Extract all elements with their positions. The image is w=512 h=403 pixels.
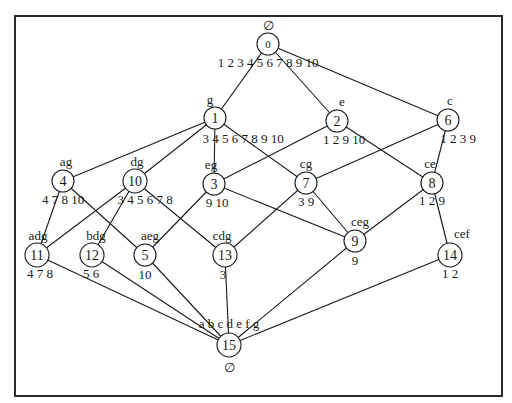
node-0: 0∅1 2 3 4 5 6 7 8 9 10 [218, 18, 319, 70]
edges-layer [37, 44, 450, 345]
node-extent-label: 3 4 5 6 7 8 9 10 [202, 131, 283, 146]
node-intent-label: e [339, 94, 345, 109]
node-8: 8ce1 2 9 [419, 156, 445, 208]
node-id-label: 0 [265, 38, 271, 50]
node-id-label: 3 [211, 177, 218, 192]
node-id-label: 9 [352, 234, 359, 249]
node-id-label: 6 [445, 113, 452, 128]
node-1: 1g3 4 5 6 7 8 9 10 [202, 92, 283, 146]
node-intent-label: a b c d e f g [199, 316, 260, 331]
node-intent-label: cef [454, 226, 471, 241]
node-id-label: 4 [60, 174, 67, 189]
node-7: 7cg3 9 [295, 156, 317, 209]
edge-14-15 [229, 255, 450, 345]
concept-lattice-diagram: 0∅1 2 3 4 5 6 7 8 9 101g3 4 5 6 7 8 9 10… [0, 0, 512, 403]
node-extent-label: 1 2 3 4 5 6 7 8 9 10 [218, 55, 319, 70]
node-extent-label: 3 4 5 6 7 8 [117, 192, 172, 207]
node-extent-label: 4 7 8 [27, 266, 53, 281]
node-12: 12bdg5 6 [80, 228, 106, 281]
node-intent-label: ∅ [263, 18, 274, 33]
node-extent-label: 4 7 8 10 [42, 192, 84, 207]
edge-12-15 [92, 255, 229, 345]
node-intent-label: g [207, 92, 214, 107]
node-intent-label: cdg [213, 228, 232, 243]
nodes-layer: 0∅1 2 3 4 5 6 7 8 9 101g3 4 5 6 7 8 9 10… [25, 18, 476, 375]
node-id-label: 13 [218, 248, 232, 263]
node-9: 9ceg9 [344, 214, 370, 268]
node-extent-label: 1 2 [442, 266, 458, 281]
node-intent-label: ag [60, 154, 73, 169]
node-4: 4ag4 7 8 10 [42, 154, 84, 207]
edge-8-9 [355, 183, 432, 241]
node-extent-label: 5 6 [83, 266, 100, 281]
node-id-label: 1 [212, 111, 219, 126]
node-2: 2e1 2 9 10 [323, 94, 365, 147]
node-extent-label: 9 10 [206, 195, 229, 210]
node-11: 11adg4 7 8 [25, 228, 53, 281]
node-extent-label: 10 [139, 267, 152, 282]
node-extent-label: 1 2 3 9 [440, 131, 476, 146]
node-id-label: 11 [30, 248, 43, 263]
node-5: 5aeg10 [134, 228, 160, 282]
node-intent-label: aeg [141, 228, 160, 243]
node-intent-label: cg [300, 156, 313, 171]
node-extent-label: 9 [352, 253, 359, 268]
node-intent-label: ce [424, 156, 436, 171]
node-intent-label: eg [205, 157, 218, 172]
node-id-label: 14 [443, 248, 457, 263]
edge-1-10 [135, 118, 215, 181]
edge-2-8 [337, 121, 432, 183]
edge-1-7 [215, 118, 306, 183]
node-extent-label: 1 2 9 [419, 193, 445, 208]
node-intent-label: bdg [86, 228, 106, 243]
node-extent-label: 1 2 9 10 [323, 132, 365, 147]
node-13: 13cdg3 [213, 228, 237, 282]
node-id-label: 15 [222, 338, 236, 353]
node-14: 14cef1 2 [438, 226, 471, 281]
node-intent-label: ceg [351, 214, 370, 229]
node-id-label: 12 [85, 248, 99, 263]
node-extent-label: ∅ [224, 360, 235, 375]
edge-3-9 [214, 184, 355, 241]
node-6: 6c1 2 3 9 [437, 93, 476, 146]
node-id-label: 2 [334, 114, 341, 129]
node-id-label: 10 [128, 174, 142, 189]
edge-11-15 [37, 255, 229, 345]
node-intent-label: c [447, 93, 453, 108]
node-intent-label: adg [29, 228, 48, 243]
edge-5-15 [145, 255, 229, 345]
node-id-label: 7 [303, 176, 310, 191]
node-extent-label: 3 9 [298, 194, 314, 209]
node-15: 15a b c d e f g∅ [199, 316, 260, 375]
node-3: 3eg9 10 [203, 157, 228, 210]
node-id-label: 5 [142, 248, 149, 263]
node-intent-label: dg [131, 154, 145, 169]
node-id-label: 8 [429, 176, 436, 191]
node-10: 10dg3 4 5 6 7 8 [117, 154, 172, 207]
node-extent-label: 3 [220, 267, 227, 282]
